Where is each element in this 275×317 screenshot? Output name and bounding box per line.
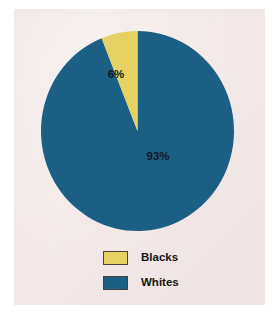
legend-swatch-blacks [103,251,128,265]
legend-item-whites[interactable]: Whites [103,272,221,294]
legend-item-blacks[interactable]: Blacks [103,247,221,269]
pie-plot-area: 6% 93% [41,31,234,231]
legend-label-whites: Whites [141,277,179,289]
legend: Blacks Whites [103,247,221,297]
slice-label-whites: 93% [146,150,169,162]
pie-chart-figure: 6% 93% Blacks Whites [0,0,275,317]
legend-label-blacks: Blacks [141,252,178,264]
legend-swatch-whites [103,276,128,290]
pie-svg: 6% 93% [41,31,234,231]
slice-label-blacks: 6% [108,68,125,80]
